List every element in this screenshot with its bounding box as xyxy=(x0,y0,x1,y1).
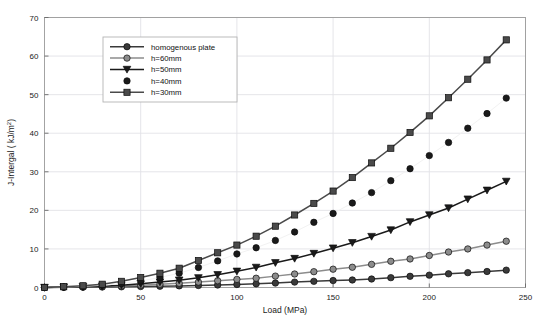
data-point xyxy=(311,200,317,206)
legend-label: h=50mm xyxy=(151,65,182,74)
data-point xyxy=(124,44,130,50)
x-axis-title: Load (MPa) xyxy=(263,305,308,315)
data-point xyxy=(349,264,355,270)
data-point xyxy=(99,281,105,287)
data-point xyxy=(291,271,297,277)
data-point xyxy=(253,275,259,281)
data-point xyxy=(388,274,394,280)
data-point xyxy=(349,277,355,283)
data-point xyxy=(272,273,278,279)
data-point xyxy=(80,283,86,289)
data-point xyxy=(330,210,336,216)
data-point xyxy=(465,269,471,275)
data-point xyxy=(118,278,124,284)
data-point xyxy=(368,261,374,267)
data-point xyxy=(311,278,317,284)
y-tick-label: 70 xyxy=(30,14,39,23)
data-point xyxy=(253,245,259,251)
data-point xyxy=(157,270,163,276)
data-point xyxy=(330,266,336,272)
data-point xyxy=(445,139,451,145)
data-point xyxy=(330,277,336,283)
data-point xyxy=(503,238,509,244)
data-point xyxy=(234,276,240,282)
data-point xyxy=(407,129,413,135)
data-point xyxy=(407,256,413,262)
legend-label: homogenous plate xyxy=(151,43,215,52)
data-point xyxy=(124,89,130,95)
data-point xyxy=(484,268,490,274)
data-point xyxy=(176,265,182,271)
data-point xyxy=(124,78,130,84)
y-tick-label: 10 xyxy=(30,245,39,254)
data-point xyxy=(61,284,67,290)
data-point xyxy=(291,229,297,235)
data-point xyxy=(484,242,490,248)
data-point xyxy=(291,279,297,285)
data-point xyxy=(388,177,394,183)
plot-background xyxy=(0,0,539,315)
y-tick-label: 30 xyxy=(30,168,39,177)
data-point xyxy=(234,251,240,257)
data-point xyxy=(41,284,47,290)
data-point xyxy=(407,166,413,172)
legend-label: h=60mm xyxy=(151,54,182,63)
data-point xyxy=(368,276,374,282)
data-point xyxy=(311,219,317,225)
data-point xyxy=(349,174,355,180)
data-point xyxy=(368,160,374,166)
x-tick-label: 100 xyxy=(230,293,244,302)
data-point xyxy=(426,152,432,158)
y-tick-label: 40 xyxy=(30,129,39,138)
data-point xyxy=(484,110,490,116)
data-point xyxy=(445,95,451,101)
x-tick-label: 200 xyxy=(423,293,437,302)
data-point xyxy=(503,37,509,43)
x-tick-label: 150 xyxy=(326,293,340,302)
data-point xyxy=(445,271,451,277)
data-point xyxy=(426,272,432,278)
legend-label: h=40mm xyxy=(151,77,182,86)
chart-legend: homogenous plateh=60mmh=50mmh=40mmh=30mm xyxy=(103,37,237,102)
data-point xyxy=(311,268,317,274)
data-point xyxy=(195,257,201,263)
data-point xyxy=(215,250,221,256)
data-point xyxy=(124,55,130,61)
data-point xyxy=(330,188,336,194)
y-tick-label: 60 xyxy=(30,52,39,61)
x-tick-label: 0 xyxy=(42,293,47,302)
data-point xyxy=(503,267,509,273)
chart-canvas: 050100150200250010203040506070 homogenou… xyxy=(0,0,539,315)
data-point xyxy=(234,242,240,248)
data-point xyxy=(388,258,394,264)
data-point xyxy=(407,273,413,279)
data-point xyxy=(388,145,394,151)
data-point xyxy=(426,113,432,119)
data-point xyxy=(253,233,259,239)
y-tick-label: 50 xyxy=(30,91,39,100)
data-point xyxy=(484,57,490,63)
data-point xyxy=(503,95,509,101)
data-point xyxy=(138,274,144,280)
x-tick-label: 50 xyxy=(136,293,145,302)
data-point xyxy=(214,258,220,264)
y-axis-title: J-Intergal ( kJ/m2) xyxy=(6,119,16,186)
data-point xyxy=(465,125,471,131)
data-point xyxy=(349,200,355,206)
data-point xyxy=(445,249,451,255)
data-point xyxy=(272,223,278,229)
y-tick-label: 20 xyxy=(30,206,39,215)
data-point xyxy=(368,189,374,195)
data-point xyxy=(272,280,278,286)
chart-root: 050100150200250010203040506070 homogenou… xyxy=(0,0,539,315)
data-point xyxy=(465,76,471,82)
data-point xyxy=(426,252,432,258)
x-tick-label: 250 xyxy=(519,293,533,302)
data-point xyxy=(195,264,201,270)
data-point xyxy=(292,212,298,218)
data-point xyxy=(465,246,471,252)
data-point xyxy=(272,237,278,243)
legend-label: h=30mm xyxy=(151,88,182,97)
y-tick-label: 0 xyxy=(34,284,39,293)
